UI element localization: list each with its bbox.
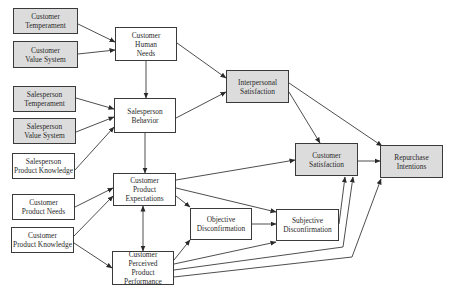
arrow-salesperson-product-knowledge-to-salesperson-behavior (75, 127, 114, 170)
customer-satisfaction-model-diagram: Customer TemperamentCustomer Value Syste… (0, 0, 452, 291)
node-label: Customer Product Knowledge (13, 231, 72, 249)
arrow-subjective-disconfirmation-to-customer-satisfaction (339, 177, 345, 224)
arrow-customer-human-needs-to-interpersonal-satisfaction (177, 43, 226, 78)
node-salesperson-value-system: Salesperson Value System (13, 118, 76, 144)
node-customer-product-expectations: Customer Product Expectations (113, 173, 176, 206)
node-label: Customer Value System (25, 46, 65, 64)
node-customer-product-knowledge: Customer Product Knowledge (11, 227, 74, 253)
arrow-salesperson-temperament-to-salesperson-behavior (76, 98, 114, 109)
node-objective-disconfirmation: Objective Disconfirmation (190, 208, 252, 240)
arrow-salesperson-value-system-to-salesperson-behavior (76, 117, 114, 132)
node-label: Interpersonal Satisfaction (238, 78, 277, 96)
node-label: Salesperson Temperament (24, 90, 65, 108)
arrow-customer-product-expectations-to-objective-disconfirmation (176, 196, 190, 207)
node-customer-value-system: Customer Value System (13, 41, 78, 68)
node-label: Salesperson Product Knowledge (14, 157, 73, 175)
arrow-customer-product-knowledge-to-customer-perceived-product-performance (74, 243, 112, 268)
node-label: Customer Product Needs (22, 198, 65, 216)
arrow-customer-product-expectations-to-customer-satisfaction (176, 160, 295, 180)
node-label: Repurchase Intentions (394, 153, 428, 171)
node-label: Salesperson Value System (24, 122, 64, 140)
node-customer-temperament: Customer Temperament (13, 8, 78, 34)
node-label: Customer Perceived Product Performance (114, 250, 172, 286)
arrow-customer-product-knowledge-to-customer-product-expectations (74, 196, 113, 236)
node-repurchase-intentions: Repurchase Intentions (380, 145, 443, 178)
node-customer-perceived-product-performance: Customer Perceived Product Performance (112, 251, 174, 285)
arrow-customer-perceived-product-performance-to-objective-disconfirmation (174, 240, 190, 260)
node-subjective-disconfirmation: Subjective Disconfirmation (276, 209, 339, 241)
node-label: Customer Product Expectations (125, 176, 163, 203)
node-label: Customer Temperament (25, 12, 66, 30)
arrow-interpersonal-satisfaction-to-customer-satisfaction (289, 92, 320, 143)
node-salesperson-product-knowledge: Salesperson Product Knowledge (12, 153, 75, 179)
node-interpersonal-satisfaction: Interpersonal Satisfaction (226, 70, 289, 103)
node-label: Subjective Disconfirmation (283, 216, 331, 234)
node-customer-human-needs: Customer Human Needs (115, 27, 177, 61)
node-label: Objective Disconfirmation (197, 215, 245, 233)
node-label: Customer Satisfaction (309, 151, 344, 169)
arrow-customer-product-needs-to-customer-product-expectations (75, 188, 113, 207)
arrow-customer-value-system-to-customer-human-needs (78, 50, 115, 54)
arrow-customer-perceived-product-performance-to-subjective-disconfirmation (174, 242, 276, 264)
node-customer-product-needs: Customer Product Needs (12, 194, 75, 220)
arrow-customer-temperament-to-customer-human-needs (78, 24, 115, 42)
node-salesperson-temperament: Salesperson Temperament (13, 86, 76, 112)
node-label: Customer Human Needs (132, 31, 161, 58)
node-label: Salesperson Behavior (127, 107, 162, 125)
node-customer-satisfaction: Customer Satisfaction (295, 143, 358, 176)
node-salesperson-behavior: Salesperson Behavior (114, 98, 176, 133)
arrow-salesperson-behavior-to-interpersonal-satisfaction (176, 92, 226, 118)
